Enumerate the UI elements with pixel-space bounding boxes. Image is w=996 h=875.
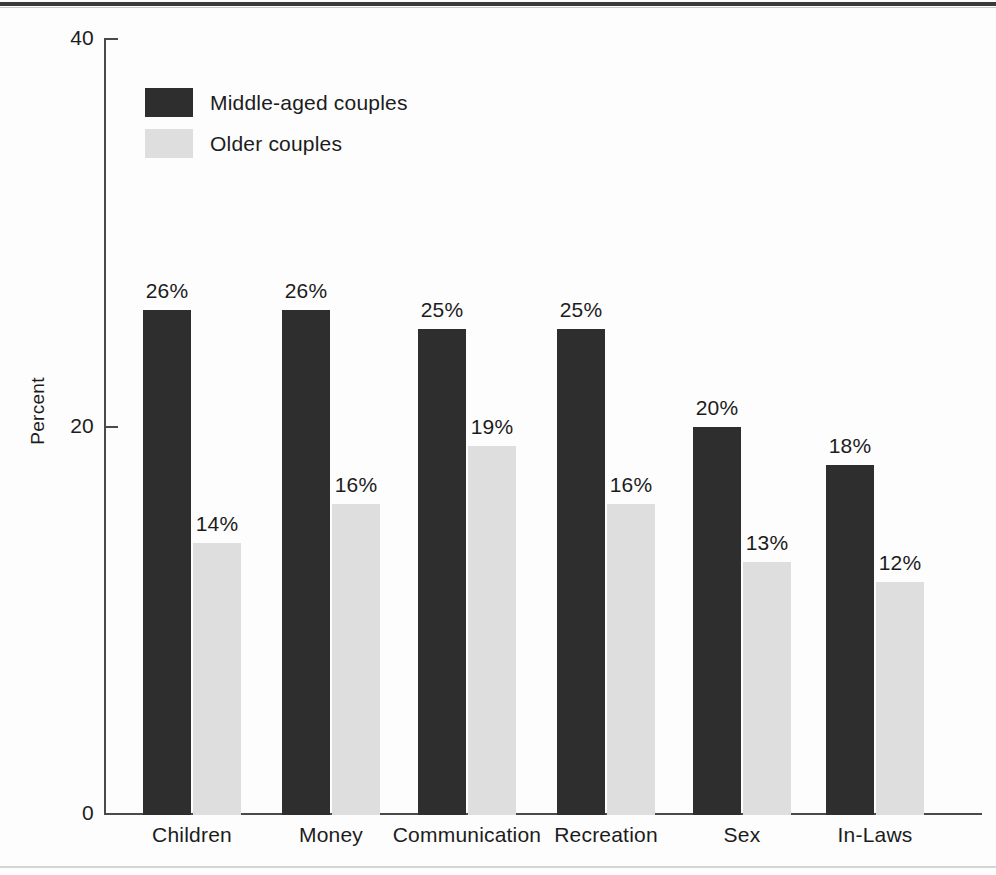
chart-legend: Middle-aged couples Older couples [145,82,408,164]
legend-item-middle-aged-couples: Middle-aged couples [145,82,408,123]
bar-communication-older-couples [468,446,516,815]
bar-value-label: 26% [268,279,344,303]
bar-sex-older-couples [743,562,791,815]
bar-value-label: 16% [593,473,669,497]
bar-recreation-middle-aged-couples [557,329,605,815]
bar-children-middle-aged-couples [143,310,191,815]
bar-inlaws-older-couples [876,582,924,815]
bar-value-label: 16% [318,473,394,497]
bar-sex-middle-aged-couples [693,427,741,816]
y-tick-mark-20 [104,426,118,428]
legend-label-middle-aged-couples: Middle-aged couples [210,91,408,115]
bar-value-label: 20% [679,396,755,420]
bar-value-label: 14% [179,512,255,536]
bar-value-label: 13% [729,531,805,555]
bar-children-older-couples [193,543,241,815]
bar-money-older-couples [332,504,380,815]
bar-value-label: 18% [812,434,888,458]
bar-communication-middle-aged-couples [418,329,466,815]
legend-swatch-older-couples [145,129,193,158]
y-tick-label-40: 40 [34,26,94,50]
bar-value-label: 25% [404,298,480,322]
y-tick-mark-0 [104,813,118,815]
bar-value-label: 25% [543,298,619,322]
x-axis-category-label: In-Laws [766,823,984,847]
bar-value-label: 12% [862,551,938,575]
bar-chart-plot-area: 40 20 0 Percent Middle-aged couples Olde… [0,0,996,875]
y-axis-title: Percent [27,331,49,491]
bar-value-label: 26% [129,279,205,303]
y-tick-mark-40 [104,38,118,40]
legend-label-older-couples: Older couples [210,132,342,156]
bar-money-middle-aged-couples [282,310,330,815]
legend-item-older-couples: Older couples [145,123,408,164]
chart-page: 40 20 0 Percent Middle-aged couples Olde… [0,0,996,875]
bar-inlaws-middle-aged-couples [826,465,874,815]
bar-value-label: 19% [454,415,530,439]
bar-recreation-older-couples [607,504,655,815]
legend-swatch-middle-aged-couples [145,88,193,117]
y-tick-label-0: 0 [34,801,94,825]
